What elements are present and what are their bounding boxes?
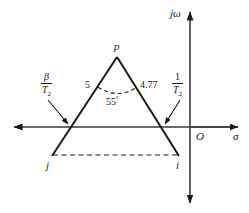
- diagram-canvas: [0, 0, 249, 213]
- left-pole-label: β T2: [41, 72, 52, 98]
- figure-root: jω σ O p j i 5 4.77 55° β T2 1 T2: [0, 0, 249, 213]
- left-pole-denominator-subscript: 2: [48, 90, 52, 98]
- imag-axis-label: jω: [170, 8, 181, 19]
- apex-vertex-label: p: [114, 41, 120, 52]
- apex-angle-label: 55°: [106, 96, 119, 107]
- degree-sign: °: [116, 95, 119, 103]
- right-pole-leader-arrow: [165, 100, 180, 124]
- left-side-length-label: 5: [85, 80, 90, 90]
- right-pole-denominator-subscript: 2: [179, 90, 183, 98]
- left-pole-leader-arrow: [48, 100, 68, 124]
- triangle-right-leg: [117, 57, 179, 156]
- right-pole-denominator: T2: [172, 85, 183, 98]
- origin-label: O: [196, 131, 204, 142]
- right-side-length-label: 4.77: [140, 80, 158, 90]
- bottom-left-vertex-label: j: [46, 160, 49, 171]
- right-pole-numerator: 1: [172, 72, 183, 83]
- bottom-right-vertex-label: i: [176, 160, 179, 171]
- left-pole-denominator: T2: [41, 85, 52, 98]
- right-pole-label: 1 T2: [172, 72, 183, 98]
- real-axis-label: σ: [233, 131, 238, 142]
- apex-angle-arc: [98, 87, 137, 94]
- apex-angle-value: 55: [106, 96, 116, 107]
- left-pole-numerator: β: [41, 72, 52, 83]
